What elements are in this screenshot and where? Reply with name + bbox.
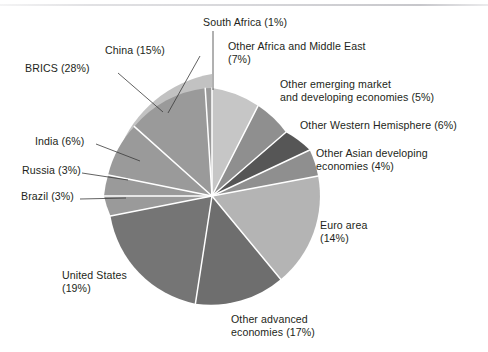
label-south-africa: South Africa (1%) xyxy=(203,16,287,28)
label-other-advanced-economies-line1: Other advanced xyxy=(231,313,308,325)
label-other-emerging-market-line2: and developing economies (5%) xyxy=(280,91,434,103)
label-brazil: Brazil (3%) xyxy=(21,190,74,202)
label-euro-area-line2: (14%) xyxy=(320,232,349,244)
label-other-africa-and-middle-east-line1: Other Africa and Middle East xyxy=(228,40,366,52)
label-russia: Russia (3%) xyxy=(22,164,81,176)
label-other-asian-developing-line2: economies (4%) xyxy=(316,160,394,172)
label-other-emerging-market-line1: Other emerging market xyxy=(280,78,391,90)
pie-chart-figure: South Africa (1%) China (15%) BRICS (28%… xyxy=(0,0,488,352)
label-united-states-line2: (19%) xyxy=(62,282,91,294)
label-united-states-line1: United States xyxy=(62,269,127,281)
label-other-africa-and-middle-east-line2: (7%) xyxy=(228,53,251,65)
label-china: China (15%) xyxy=(105,44,165,56)
label-other-western-hemisphere: Other Western Hemisphere (6%) xyxy=(300,119,457,131)
label-brics: BRICS (28%) xyxy=(25,62,90,74)
label-other-advanced-economies-line2: economies (17%) xyxy=(231,326,315,338)
label-india: India (6%) xyxy=(35,135,84,147)
label-other-asian-developing-line1: Other Asian developing xyxy=(316,147,428,159)
label-euro-area-line1: Euro area xyxy=(320,219,367,231)
leader-line-brics xyxy=(118,73,163,112)
